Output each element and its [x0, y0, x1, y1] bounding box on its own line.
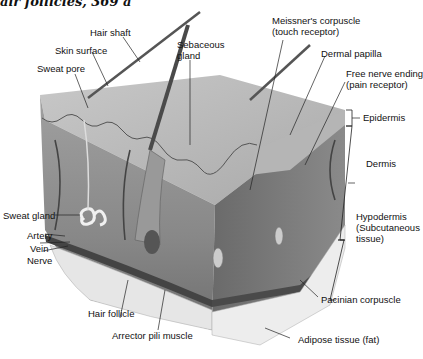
label-sebaceous-line2: gland — [177, 50, 225, 61]
label-dermal-papilla: Dermal papilla — [321, 48, 382, 59]
label-hypodermis-line3: tissue) — [356, 233, 420, 244]
label-adipose-tissue: Adipose tissue (fat) — [298, 334, 379, 345]
label-artery: Artery — [27, 230, 52, 241]
label-meissner-line1: Meissner's corpuscle — [272, 15, 360, 26]
label-pacinian-corpuscle: Pacinian corpuscle — [321, 294, 401, 305]
label-sebaceous-gland: Sebaceous gland — [177, 39, 225, 61]
label-free-nerve-line2: (pain receptor) — [346, 79, 423, 90]
label-arrector-pili-muscle: Arrector pili muscle — [112, 330, 193, 341]
label-free-nerve-line1: Free nerve ending — [346, 68, 423, 79]
label-hair-shaft: Hair shaft — [90, 27, 131, 38]
label-epidermis: Epidermis — [363, 112, 405, 123]
label-nerve: Nerve — [27, 255, 52, 266]
label-hypodermis: Hypodermis (Subcutaneous tissue) — [356, 211, 420, 244]
label-hair-follicle: Hair follicle — [88, 308, 134, 319]
label-free-nerve-ending: Free nerve ending (pain receptor) — [346, 68, 423, 90]
label-sweat-pore: Sweat pore — [37, 63, 85, 74]
label-vein: Vein — [30, 243, 49, 254]
label-sebaceous-line1: Sebaceous — [177, 39, 225, 50]
label-hypodermis-line2: (Subcutaneous — [356, 222, 420, 233]
label-skin-surface: Skin surface — [55, 45, 107, 56]
label-dermis: Dermis — [366, 158, 396, 169]
label-meissners-corpuscle: Meissner's corpuscle (touch receptor) — [272, 15, 360, 37]
label-meissner-line2: (touch receptor) — [272, 26, 360, 37]
label-hypodermis-line1: Hypodermis — [356, 211, 420, 222]
label-sweat-gland: Sweat gland — [3, 210, 55, 221]
